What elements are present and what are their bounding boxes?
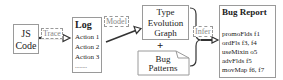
infer-edge-label: Infer	[193, 26, 213, 37]
js-code-line1: JS	[14, 28, 38, 40]
bug-patterns-node: Bug Patterns	[140, 55, 186, 73]
js-code-line2: Code	[14, 40, 38, 52]
bug-report-title: Bug Report	[222, 7, 267, 17]
log-item: Action 1	[75, 33, 99, 41]
model-edge-label: Model	[104, 16, 129, 27]
bug-report-item: useMixin o5	[222, 48, 257, 56]
trace-edge-label: Trace	[41, 28, 63, 39]
log-item-ellipsis: ........	[75, 63, 87, 69]
teg-line1: Type	[143, 7, 188, 18]
js-code-node: JS Code	[13, 24, 39, 54]
bug-patterns-line2: Patterns	[140, 64, 186, 73]
type-evolution-graph-node: Type Evolution Graph	[142, 5, 189, 40]
log-item: Action 3	[75, 53, 99, 61]
bug-report-item: promoFlds f1	[222, 30, 260, 38]
bug-report-item: movMap f6, f7	[222, 66, 264, 74]
plus-sign: +	[157, 39, 163, 51]
log-title: Log	[75, 19, 92, 30]
bug-report-item: ordFls f3, f4	[222, 39, 257, 47]
teg-line3: Graph	[143, 28, 188, 39]
bug-report-node: Bug Report promoFlds f1 ordFls f3, f4 us…	[219, 5, 276, 78]
log-item: Action 2	[75, 43, 99, 51]
bug-report-item: advFlds f5	[222, 57, 252, 65]
teg-line2: Evolution	[143, 18, 188, 29]
log-node: Log Action 1 Action 2 Action 3 ........	[72, 17, 102, 73]
